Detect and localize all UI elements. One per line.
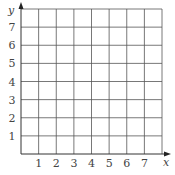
y-tick-label: 1 (9, 130, 16, 143)
coordinate-grid: 1234567 1234567 x y (0, 0, 175, 175)
x-tick-label: 1 (35, 157, 42, 170)
y-axis-arrow-icon (19, 2, 24, 9)
x-axis-label: x (163, 156, 170, 169)
y-axis-label: y (7, 4, 15, 17)
x-tick-label: 7 (141, 157, 148, 170)
x-tick-label: 4 (88, 157, 95, 170)
y-tick-label: 4 (9, 76, 16, 89)
grid-lines (21, 9, 162, 154)
y-tick-label: 2 (9, 112, 16, 125)
y-tick-label: 3 (9, 94, 16, 107)
x-tick-label: 5 (106, 157, 113, 170)
x-tick-label: 2 (53, 157, 60, 170)
axes (19, 2, 172, 157)
y-tick-labels: 1234567 (9, 21, 16, 143)
y-tick-label: 5 (9, 57, 16, 70)
y-tick-label: 6 (9, 39, 16, 52)
y-tick-label: 7 (9, 21, 16, 34)
x-tick-labels: 1234567 (35, 157, 148, 170)
x-tick-label: 3 (70, 157, 77, 170)
x-tick-label: 6 (123, 157, 130, 170)
